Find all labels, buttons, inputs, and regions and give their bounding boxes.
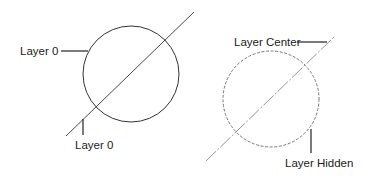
label-layer0-circle: Layer 0	[20, 45, 58, 57]
label-layer-hidden: Layer Hidden	[285, 157, 353, 169]
label-layer0-line: Layer 0	[75, 139, 113, 151]
right-figure: Layer Center Layer Hidden	[206, 36, 353, 169]
label-layer-center: Layer Center	[234, 36, 301, 48]
layer0-line	[66, 12, 194, 136]
center-line	[206, 37, 334, 161]
diagram-canvas: Layer 0 Layer 0 Layer Center Layer Hidde…	[0, 0, 366, 179]
left-figure: Layer 0 Layer 0	[20, 12, 194, 151]
